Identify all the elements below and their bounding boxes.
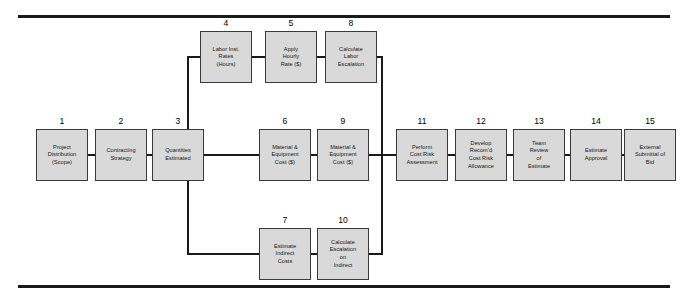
process-box-12[interactable]: Develop Recom'd Cost Risk Allowance (455, 129, 507, 181)
connector-c11_12 (448, 154, 455, 156)
process-box-1[interactable]: Project Distribution (Scope) (36, 129, 88, 181)
process-box-label-15: External Submittal of Bid (633, 144, 667, 167)
connector-cbr_t (187, 56, 200, 58)
process-box-7[interactable]: Estimate Indirect Costs (259, 228, 311, 280)
process-box-10[interactable]: Calculate Escalation on Indirect (317, 228, 369, 280)
process-box-label-6: Material & Equipment Cost ($) (269, 144, 300, 167)
node-number-9: 9 (317, 116, 369, 126)
process-box-2[interactable]: Contracting Strategy (95, 129, 147, 181)
node-number-4: 4 (200, 18, 252, 28)
node-number-14: 14 (570, 116, 622, 126)
connector-cmg_b (369, 253, 383, 255)
process-box-label-13: Team Review of Estimate (526, 140, 552, 170)
process-box-label-10: Calculate Escalation on Indirect (328, 239, 358, 269)
connector-c4_5 (252, 56, 265, 58)
process-box-13[interactable]: Team Review of Estimate (513, 129, 565, 181)
node-number-3: 3 (152, 116, 204, 126)
process-box-14[interactable]: Estimate Approval (570, 129, 622, 181)
flowchart-canvas: 1Project Distribution (Scope)2Contractin… (0, 0, 687, 300)
node-number-12: 12 (455, 116, 507, 126)
node-number-15: 15 (624, 116, 676, 126)
node-number-11: 11 (396, 116, 448, 126)
node-number-6: 6 (259, 116, 311, 126)
node-number-7: 7 (259, 215, 311, 225)
node-number-1: 1 (36, 116, 88, 126)
process-box-15[interactable]: External Submittal of Bid (624, 129, 676, 181)
connector-cmg_m (369, 154, 396, 156)
process-box-label-2: Contracting Strategy (104, 147, 137, 162)
bottom-divider-rule (18, 285, 670, 288)
process-box-label-3: Quantities Estimated (163, 147, 193, 162)
connector-c5_8 (317, 56, 325, 58)
process-box-label-14: Estimate Approval (583, 147, 609, 162)
connector-cbr_db (187, 253, 259, 255)
node-number-2: 2 (95, 116, 147, 126)
node-number-5: 5 (265, 18, 317, 28)
process-box-label-5: Apply Hourly Rate ($) (279, 46, 304, 69)
process-box-label-12: Develop Recom'd Cost Risk Allowance (466, 140, 496, 170)
process-box-4[interactable]: Labor Inst. Rates (Hours) (200, 31, 252, 83)
process-box-label-11: Perform Cost Risk Assessment (405, 144, 440, 167)
process-box-label-1: Project Distribution (Scope) (46, 144, 79, 167)
connector-c1_2 (88, 154, 95, 156)
process-box-label-4: Labor Inst. Rates (Hours) (211, 46, 242, 69)
node-number-8: 8 (325, 18, 377, 28)
process-box-label-7: Estimate Indirect Costs (272, 243, 298, 266)
connector-c3_bus (204, 154, 259, 156)
process-box-9[interactable]: Material & Equipment Cost ($) (317, 129, 369, 181)
node-number-10: 10 (317, 215, 369, 225)
process-box-11[interactable]: Perform Cost Risk Assessment (396, 129, 448, 181)
process-box-6[interactable]: Material & Equipment Cost ($) (259, 129, 311, 181)
process-box-5[interactable]: Apply Hourly Rate ($) (265, 31, 317, 83)
process-box-3[interactable]: Quantities Estimated (152, 129, 204, 181)
node-number-13: 13 (513, 116, 565, 126)
connector-cmg_t (377, 56, 383, 58)
process-box-label-9: Material & Equipment Cost ($) (327, 144, 358, 167)
process-box-label-8: Calculate Labor Escalation (336, 46, 366, 69)
process-box-8[interactable]: Calculate Labor Escalation (325, 31, 377, 83)
